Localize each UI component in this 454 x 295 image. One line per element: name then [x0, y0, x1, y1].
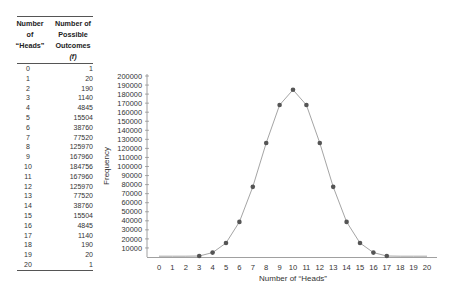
y-tick-label: 20000	[121, 235, 142, 244]
x-tick-label: 2	[184, 263, 188, 272]
x-tick-label: 12	[316, 263, 324, 272]
y-tick-label: 150000	[117, 117, 142, 126]
data-point	[331, 185, 336, 190]
y-tick-label: 100000	[117, 162, 142, 171]
x-tick-label: 3	[197, 263, 201, 272]
data-point	[237, 220, 242, 225]
x-tick-label: 9	[277, 263, 281, 272]
x-tick-label: 10	[289, 263, 297, 272]
y-tick-label: 180000	[117, 90, 142, 99]
y-tick-label: 80000	[121, 180, 142, 189]
chart-axes: 1000020000300004000050000600007000080000…	[117, 72, 437, 272]
data-point	[358, 241, 363, 246]
data-point	[210, 250, 215, 255]
y-tick-label: 30000	[121, 225, 142, 234]
data-point	[251, 185, 256, 190]
y-tick-label: 10000	[121, 244, 142, 253]
x-tick-label: 14	[342, 263, 350, 272]
x-tick-label: 16	[369, 263, 377, 272]
y-tick-label: 70000	[121, 189, 142, 198]
x-tick-label: 18	[396, 263, 404, 272]
y-tick-label: 40000	[121, 216, 142, 225]
data-point	[318, 141, 323, 146]
data-point	[264, 141, 269, 146]
data-point	[291, 87, 296, 92]
y-tick-label: 140000	[117, 126, 142, 135]
data-point	[224, 241, 229, 246]
x-tick-label: 19	[409, 263, 417, 272]
x-tick-label: 1	[170, 263, 174, 272]
y-tick-label: 110000	[118, 153, 142, 162]
x-tick-label: 17	[383, 263, 391, 272]
x-tick-label: 13	[329, 263, 337, 272]
y-tick-label: 60000	[121, 198, 142, 207]
chart-series	[159, 87, 427, 258]
y-tick-label: 50000	[121, 207, 142, 216]
x-tick-label: 7	[251, 263, 255, 272]
x-tick-label: 15	[356, 263, 364, 272]
y-tick-label: 200000	[117, 72, 142, 81]
x-tick-label: 0	[157, 263, 161, 272]
x-tick-label: 4	[210, 263, 214, 272]
data-point	[385, 254, 390, 259]
x-tick-label: 6	[237, 263, 241, 272]
y-tick-label: 130000	[117, 135, 142, 144]
y-tick-label: 170000	[117, 99, 142, 108]
y-tick-label: 190000	[117, 81, 142, 90]
x-axis-label: Number of “Heads”	[259, 274, 327, 283]
y-tick-label: 120000	[117, 144, 142, 153]
y-tick-label: 160000	[117, 108, 142, 117]
x-tick-label: 11	[302, 263, 310, 272]
data-point	[344, 220, 349, 225]
frequency-line-chart: 1000020000300004000050000600007000080000…	[0, 0, 454, 295]
y-axis-label: Frequency	[102, 147, 111, 185]
frequency-line	[159, 90, 427, 256]
x-tick-label: 20	[423, 263, 431, 272]
x-tick-label: 5	[224, 263, 228, 272]
y-tick-label: 90000	[121, 171, 142, 180]
data-point	[371, 250, 376, 255]
x-tick-label: 8	[264, 263, 268, 272]
data-point	[304, 103, 309, 108]
data-point	[277, 103, 282, 108]
data-point	[197, 254, 202, 259]
